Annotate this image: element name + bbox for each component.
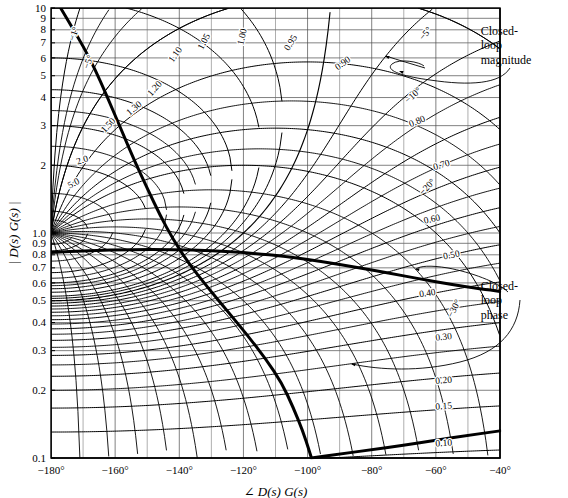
y-tick-label: 0.6	[32, 277, 46, 289]
annotation-line: loop	[481, 38, 502, 52]
y-tick-label: 8	[41, 23, 47, 35]
svg-text:0.15: 0.15	[435, 400, 453, 411]
y-tick-label: 6	[41, 52, 47, 64]
y-tick-label: 0.7	[32, 261, 46, 273]
x-tick-label: −40°	[489, 464, 511, 476]
y-tick-label: 0.9	[32, 237, 46, 249]
y-tick-label: 0.1	[32, 452, 46, 464]
y-tick-label: 0.3	[32, 344, 46, 356]
y-tick-label: 9	[41, 12, 47, 24]
nichols-chart: 0.10.20.30.40.50.60.70.80.91.02345678910…	[0, 0, 568, 498]
y-tick-label: 10	[35, 2, 47, 14]
y-tick-label: 1.0	[32, 227, 46, 239]
x-tick-label: −160°	[102, 464, 129, 476]
x-tick-label: −180°	[37, 464, 64, 476]
svg-text:0.20: 0.20	[435, 374, 453, 385]
y-axis-title: | D(s) G(s) |	[6, 201, 21, 264]
x-tick-label: −60°	[425, 464, 447, 476]
y-tick-label: 4	[41, 91, 47, 103]
y-tick-label: 0.2	[32, 384, 46, 396]
x-tick-label: −120°	[230, 464, 257, 476]
x-tick-label: −80°	[361, 464, 383, 476]
x-tick-label: −100°	[294, 464, 321, 476]
magnitude-contour-label: 0.200.20	[435, 374, 453, 385]
y-tick-label: 3	[41, 119, 47, 131]
magnitude-contour-label: 0.100.10	[435, 438, 452, 449]
annotation-line: magnitude	[481, 53, 532, 67]
magnitude-contour-label: 0.300.30	[435, 331, 453, 343]
y-tick-label: 0.5	[32, 294, 46, 306]
x-tick-label: −140°	[166, 464, 193, 476]
y-tick-label: 0.8	[32, 248, 46, 260]
svg-text:| D(s) G(s) |: | D(s) G(s) |	[6, 201, 21, 264]
annotation-line: phase	[481, 308, 508, 322]
y-tick-label: 7	[41, 36, 47, 48]
x-axis-title: ∠ D(s) G(s)	[244, 484, 308, 498]
y-tick-label: 2	[41, 159, 47, 171]
annotation-line: Closed-	[481, 24, 518, 38]
svg-text:0.30: 0.30	[435, 331, 453, 343]
y-tick-label: 5	[41, 69, 47, 81]
magnitude-contour-label: 0.150.15	[435, 400, 453, 411]
chart-canvas: 0.10.20.30.40.50.60.70.80.91.02345678910…	[0, 0, 568, 498]
annotation-line: loop	[481, 293, 502, 307]
svg-text:0.10: 0.10	[435, 438, 452, 449]
y-tick-label: 0.4	[32, 316, 46, 328]
